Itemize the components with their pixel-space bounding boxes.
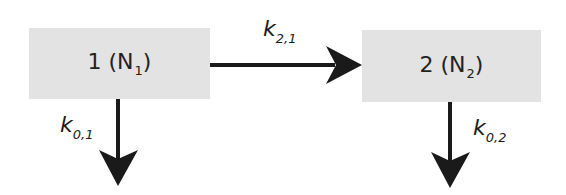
arrow-transfer-1-to-2 — [210, 46, 362, 84]
rate-label-k02: k0,2 — [473, 115, 506, 145]
rate-label-k01: k0,1 — [60, 112, 93, 142]
rate-label-k21: k2,1 — [263, 16, 296, 46]
arrow-elimination-1 — [99, 99, 138, 186]
arrow-elimination-2 — [431, 102, 470, 188]
